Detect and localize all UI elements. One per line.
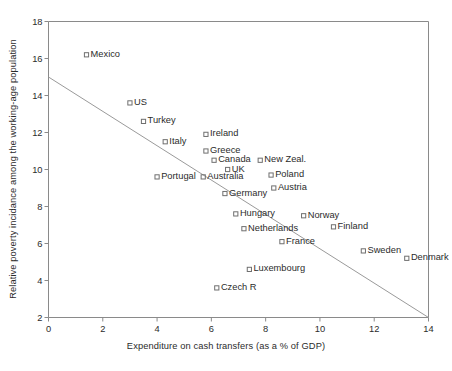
y-tick-label: 14 (19, 91, 43, 101)
point-label-ireland: Ireland (210, 129, 238, 138)
data-point-markers (84, 53, 408, 290)
x-tick-label: 12 (359, 324, 389, 334)
point-label-hungary: Hungary (240, 209, 275, 218)
x-tick-label: 6 (196, 324, 226, 334)
x-tick-label: 2 (88, 324, 118, 334)
point-label-austria: Austria (278, 183, 307, 192)
y-tick-label: 8 (19, 202, 43, 212)
point-label-portugal: Portugal (161, 172, 196, 181)
x-tick-label: 14 (414, 324, 444, 334)
point-label-mexico: Mexico (91, 50, 120, 59)
point-label-turkey: Turkey (148, 116, 176, 125)
x-tick-label: 10 (305, 324, 335, 334)
y-tick-label: 4 (19, 276, 43, 286)
point-label-czech-r: Czech R (221, 283, 257, 292)
y-tick-label: 10 (19, 165, 43, 175)
point-label-denmark: Denmark (411, 253, 449, 262)
point-label-france: France (286, 237, 315, 246)
plot-canvas (0, 0, 452, 371)
x-tick-label: 8 (251, 324, 281, 334)
x-axis-title: Expenditure on cash transfers (as a % of… (0, 341, 452, 351)
y-tick-label: 18 (19, 17, 43, 27)
y-tick-label: 6 (19, 239, 43, 249)
point-label-us: US (134, 98, 147, 107)
x-tick-label: 4 (142, 324, 172, 334)
x-tick-label: 0 (34, 324, 64, 334)
point-label-sweden: Sweden (367, 246, 401, 255)
point-label-netherlands: Netherlands (248, 224, 298, 233)
point-label-finland: Finland (338, 222, 369, 231)
point-label-norway: Norway (308, 211, 340, 220)
y-tick-label: 16 (19, 54, 43, 64)
point-label-germany: Germany (229, 189, 267, 198)
y-tick-label: 2 (19, 313, 43, 323)
scatter-plot-figure: Expenditure on cash transfers (as a % of… (0, 0, 452, 371)
point-label-luxembourg: Luxembourg (253, 264, 305, 273)
point-label-new-zeal: New Zeal. (264, 155, 306, 164)
point-label-poland: Poland (275, 170, 304, 179)
y-tick-label: 12 (19, 128, 43, 138)
point-label-italy: Italy (169, 137, 186, 146)
point-label-australia: Australia (207, 172, 243, 181)
